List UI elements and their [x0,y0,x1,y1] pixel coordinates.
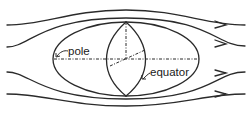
arrow-icon [215,91,226,97]
pole-leader-line [57,51,68,56]
arrow-icon [215,21,226,28]
flow-diagram: pole equator [0,0,251,122]
pole-annotation: pole [56,45,90,57]
equator-leader-line [143,73,150,79]
arrowheads [215,21,226,97]
equatorial-radius [110,50,145,66]
pole-label: pole [68,45,90,57]
equator-annotation: equator [142,66,189,79]
axes [54,22,199,66]
equator-label: equator [150,66,189,78]
cross-section-left-arc [107,22,127,96]
arrow-icon [215,70,226,76]
streamline-3 [7,72,245,99]
